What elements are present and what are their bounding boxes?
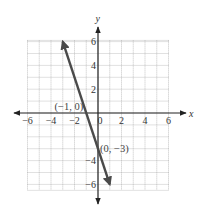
x-tick-label: 4 — [143, 115, 148, 126]
x-tick-label: −2 — [69, 115, 80, 126]
y-axis-label: y — [95, 13, 101, 24]
y-tick-label: −6 — [85, 179, 96, 190]
point-label-x-intercept: (−1, 0) — [55, 101, 84, 113]
y-tick-label: 4 — [91, 60, 96, 71]
x-tick-label: 6 — [166, 115, 171, 126]
x-axis-label: x — [188, 108, 194, 119]
coordinate-graph: xy −6−4−20246−6−4246 (−1, 0)(0, −3) — [0, 0, 204, 208]
y-tick-label: 6 — [91, 36, 96, 47]
x-tick-label: 2 — [119, 115, 124, 126]
point-label-y-intercept: (0, −3) — [100, 143, 129, 155]
x-tick-label: −6 — [22, 115, 33, 126]
y-tick-label: −4 — [85, 155, 96, 166]
y-tick-label: 2 — [91, 84, 96, 95]
x-tick-label: 0 — [98, 115, 103, 126]
x-tick-label: −4 — [46, 115, 57, 126]
